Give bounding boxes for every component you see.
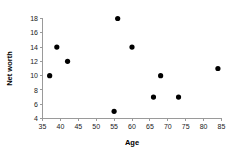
data-point (151, 94, 156, 99)
y-axis-tick-labels: 4681012141618 (30, 15, 38, 122)
data-point (112, 109, 117, 114)
y-tick-label: 10 (30, 72, 38, 79)
data-point (176, 94, 181, 99)
y-tick-label: 16 (30, 29, 38, 36)
x-tick-label: 60 (128, 123, 136, 130)
data-point (65, 59, 70, 64)
y-tick-label: 14 (30, 44, 38, 51)
data-point (47, 73, 52, 78)
x-tick-label: 40 (57, 123, 65, 130)
x-tick-label: 55 (110, 123, 118, 130)
x-tick-label: 45 (74, 123, 82, 130)
y-tick-label: 12 (30, 58, 38, 65)
data-point (129, 44, 134, 49)
y-tick-label: 8 (34, 87, 38, 94)
x-tick-label: 85 (218, 123, 226, 130)
y-tick-label: 4 (34, 115, 38, 122)
x-tick-label: 50 (92, 123, 100, 130)
x-tick-label: 75 (182, 123, 190, 130)
data-point (54, 44, 59, 49)
chart-canvas: 4681012141618 3540455055606570758085 Age… (0, 0, 233, 153)
scatter-chart: 4681012141618 3540455055606570758085 Age… (0, 0, 233, 153)
x-tick-label: 70 (164, 123, 172, 130)
data-point (115, 16, 120, 21)
y-tick-label: 6 (34, 101, 38, 108)
x-tick-label: 65 (146, 123, 154, 130)
x-tick-label: 35 (39, 123, 47, 130)
data-point (215, 66, 220, 71)
x-axis-tick-labels: 3540455055606570758085 (39, 123, 226, 130)
data-points (47, 16, 220, 114)
y-axis-title: Net worth (5, 51, 14, 86)
y-tick-label: 18 (30, 15, 38, 22)
x-tick-label: 80 (200, 123, 208, 130)
x-axis-title: Age (125, 138, 139, 147)
data-point (158, 73, 163, 78)
